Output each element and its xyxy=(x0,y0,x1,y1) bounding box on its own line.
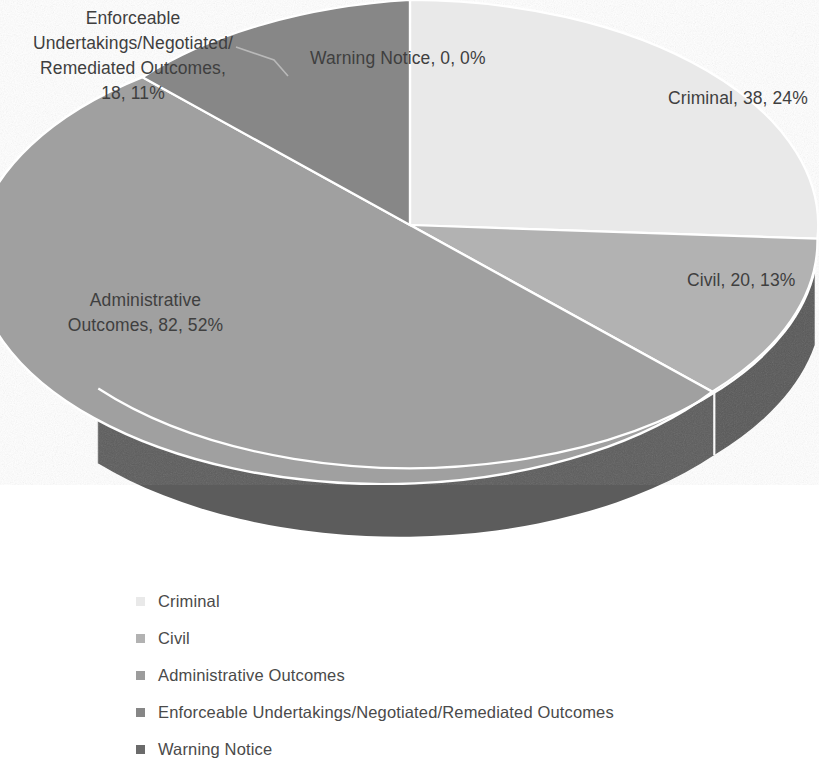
legend-label-warning-notice: Warning Notice xyxy=(158,740,272,759)
pie-slice-criminal xyxy=(410,0,818,239)
data-label-criminal: Criminal, 38, 24% xyxy=(668,86,824,111)
legend-label-civil: Civil xyxy=(158,629,190,648)
legend-label-administrative-outcomes: Administrative Outcomes xyxy=(158,666,345,685)
pie-chart-figure: Enforceable Undertakings/Negotiated/ Rem… xyxy=(0,0,824,764)
legend-swatch-warning-notice xyxy=(136,745,145,754)
legend-swatch-criminal xyxy=(136,597,145,606)
legend-swatch-enforceable-undertakings xyxy=(136,708,145,717)
data-label-administrative: Administrative Outcomes, 82, 52% xyxy=(38,288,253,338)
legend-item-warning-notice[interactable]: Warning Notice xyxy=(136,731,796,764)
legend-swatch-civil xyxy=(136,634,145,643)
legend-label-enforceable-undertakings: Enforceable Undertakings/Negotiated/Reme… xyxy=(158,703,614,722)
legend-swatch-administrative-outcomes xyxy=(136,671,145,680)
legend-item-criminal[interactable]: Criminal xyxy=(136,583,796,620)
data-label-warning-notice: Warning Notice, 0, 0% xyxy=(310,46,530,71)
legend-item-administrative-outcomes[interactable]: Administrative Outcomes xyxy=(136,657,796,694)
chart-legend: Criminal Civil Administrative Outcomes E… xyxy=(136,583,796,764)
legend-item-enforceable-undertakings[interactable]: Enforceable Undertakings/Negotiated/Reme… xyxy=(136,694,796,731)
legend-item-civil[interactable]: Civil xyxy=(136,620,796,657)
legend-label-criminal: Criminal xyxy=(158,592,220,611)
data-label-enforceable-undertakings: Enforceable Undertakings/Negotiated/ Rem… xyxy=(8,6,258,106)
data-label-civil: Civil, 20, 13% xyxy=(687,268,824,293)
